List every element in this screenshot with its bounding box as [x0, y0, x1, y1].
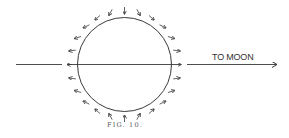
- force-arrow: [109, 9, 112, 15]
- force-arrow: [137, 114, 140, 120]
- force-arrow: [137, 9, 140, 15]
- force-arrow: [83, 25, 89, 28]
- force-arrow: [69, 78, 76, 79]
- force-arrow: [149, 15, 154, 20]
- force-arrow: [160, 101, 166, 104]
- force-arrow: [168, 91, 175, 93]
- force-arrow: [168, 37, 175, 39]
- to-moon-label: TO MOON: [212, 52, 253, 62]
- force-arrow: [83, 101, 89, 104]
- figure-caption: FIG. 10.: [0, 121, 250, 129]
- force-arrow: [173, 78, 180, 79]
- force-arrow: [74, 37, 81, 39]
- force-arrow: [69, 50, 76, 51]
- tidal-force-diagram: [0, 0, 289, 138]
- force-arrow: [74, 91, 81, 93]
- force-arrow: [95, 15, 100, 20]
- force-arrow: [109, 114, 112, 120]
- force-arrow: [95, 109, 100, 114]
- force-arrow: [173, 50, 180, 51]
- force-arrow: [160, 25, 166, 28]
- force-arrow: [149, 109, 154, 114]
